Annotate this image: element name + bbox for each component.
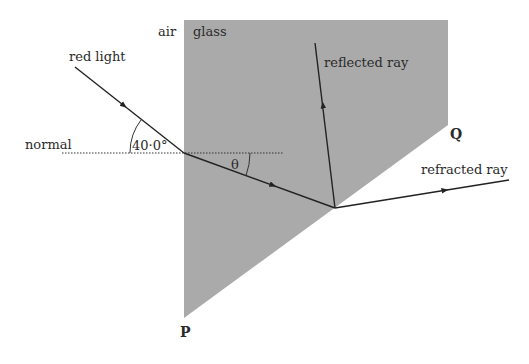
reflected-ray-label: reflected ray — [324, 55, 409, 70]
glass-label: glass — [193, 24, 227, 39]
red-light-label: red light — [69, 49, 126, 64]
incident-ray — [75, 67, 184, 153]
refracted-ray-label: refracted ray — [421, 162, 508, 177]
air-label: air — [158, 24, 177, 39]
corner-p-label: P — [180, 324, 191, 340]
theta-label: θ — [231, 157, 239, 172]
corner-q-label: Q — [450, 126, 462, 142]
glass-block — [184, 20, 448, 318]
incidence-angle-label: 40·0° — [132, 138, 167, 153]
normal-label: normal — [25, 137, 72, 152]
refraction-diagram: air glass red light normal 40·0° θ refle… — [0, 0, 529, 364]
